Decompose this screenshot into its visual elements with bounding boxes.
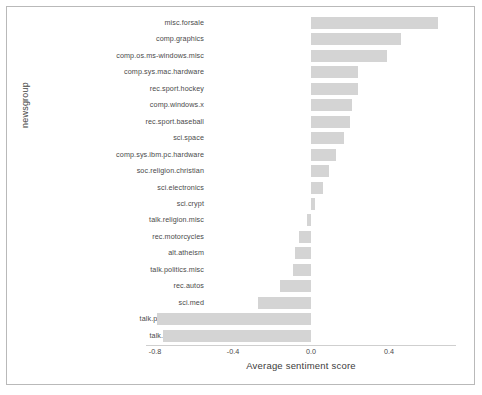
bar xyxy=(293,264,311,276)
y-axis-tick-label: talk.politics.misc xyxy=(0,264,204,276)
y-axis-tick-label: comp.graphics xyxy=(0,33,204,45)
y-axis-tick-label: rec.motorcycles xyxy=(0,231,204,243)
bar xyxy=(307,214,311,226)
x-axis-tick-label: 0.0 xyxy=(291,347,331,356)
y-axis-tick-label: rec.sport.hockey xyxy=(0,83,204,95)
bar xyxy=(157,313,311,325)
x-axis-tick-label: -0.4 xyxy=(213,347,253,356)
bar xyxy=(311,149,336,161)
bar xyxy=(311,50,387,62)
y-axis-tick-label: misc.forsale xyxy=(0,17,204,29)
y-axis-tick-label: sci.electronics xyxy=(0,182,204,194)
bar xyxy=(258,297,311,309)
x-axis-line xyxy=(146,345,456,346)
bar xyxy=(311,132,344,144)
y-axis-tick-label: talk.religion.misc xyxy=(0,214,204,226)
bar xyxy=(311,116,350,128)
bar xyxy=(163,330,311,342)
y-axis-tick-label: sci.crypt xyxy=(0,198,204,210)
y-axis-tick-label: alt.atheism xyxy=(0,247,204,259)
bar xyxy=(311,198,315,210)
bar xyxy=(280,280,311,292)
bar xyxy=(295,247,311,259)
y-axis-tick-label: comp.sys.mac.hardware xyxy=(0,66,204,78)
bar xyxy=(311,17,438,29)
y-axis-tick-label: comp.sys.ibm.pc.hardware xyxy=(0,149,204,161)
bar-chart: newsgroup misc.forsalecomp.graphicscomp.… xyxy=(0,0,482,395)
bar xyxy=(311,165,329,177)
bar xyxy=(311,99,352,111)
y-axis-tick-label: comp.os.ms-windows.misc xyxy=(0,50,204,62)
bar xyxy=(299,231,311,243)
bar xyxy=(311,33,401,45)
y-axis-tick-label: comp.windows.x xyxy=(0,99,204,111)
y-axis-tick-label: sci.med xyxy=(0,297,204,309)
bar xyxy=(311,182,323,194)
x-axis-tick-label: -0.8 xyxy=(135,347,175,356)
bar xyxy=(311,66,358,78)
x-axis-title: Average sentiment score xyxy=(146,360,456,371)
y-axis-tick-label: rec.sport.baseball xyxy=(0,116,204,128)
y-axis-tick-label: sci.space xyxy=(0,132,204,144)
y-axis-tick-label: rec.autos xyxy=(0,280,204,292)
x-axis-tick-label: 0.4 xyxy=(369,347,409,356)
y-axis-tick-label: soc.religion.christian xyxy=(0,165,204,177)
bar xyxy=(311,83,358,95)
